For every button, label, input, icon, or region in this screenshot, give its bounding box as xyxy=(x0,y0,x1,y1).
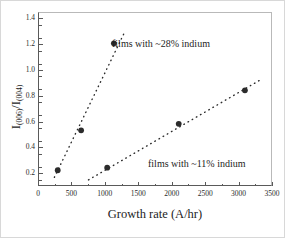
trendline-series-0 xyxy=(54,34,124,178)
x-tick-minor xyxy=(155,184,156,187)
y-tick-label: 1.2 xyxy=(14,40,35,48)
x-tick-major xyxy=(38,182,39,186)
y-tick-minor xyxy=(39,51,42,52)
annotation-11-percent-indium: films with ~11% indium xyxy=(148,158,246,170)
y-tick-major xyxy=(39,70,43,71)
y-axis-title-numerator: I xyxy=(9,125,23,129)
y-tick-label: 0.2 xyxy=(14,169,35,177)
x-tick-major xyxy=(205,182,206,186)
x-tick-label: 3500 xyxy=(265,190,280,198)
y-tick-major xyxy=(39,44,43,45)
x-tick-minor xyxy=(188,184,189,187)
y-tick-minor xyxy=(39,38,42,39)
x-axis-title: Growth rate (A/hr) xyxy=(38,207,272,221)
y-tick-minor xyxy=(39,167,42,168)
data-point-s1-2 xyxy=(242,87,248,93)
y-tick-minor xyxy=(39,76,42,77)
x-tick-major xyxy=(172,182,173,186)
x-tick-label: 500 xyxy=(66,190,77,198)
x-tick-label: 3000 xyxy=(231,190,246,198)
data-point-s1-0 xyxy=(104,165,110,171)
y-tick-minor xyxy=(39,180,42,181)
x-tick-label: 1500 xyxy=(131,190,146,198)
x-tick-major xyxy=(272,182,273,186)
x-tick-minor xyxy=(122,184,123,187)
y-tick-minor xyxy=(39,64,42,65)
x-tick-major xyxy=(138,182,139,186)
x-tick-minor xyxy=(88,184,89,187)
x-tick-minor xyxy=(255,184,256,187)
x-tick-major xyxy=(239,182,240,186)
y-tick-minor xyxy=(39,102,42,103)
y-tick-major xyxy=(39,18,43,19)
x-tick-label: 1000 xyxy=(97,190,112,198)
y-axis-title-sub-006: (006) xyxy=(15,109,24,125)
x-tick-minor xyxy=(55,184,56,187)
y-tick-minor xyxy=(39,154,42,155)
figure-container: 05001000150020002500300035000.20.40.60.8… xyxy=(0,0,286,239)
annotation-28-percent-indium: films with ~28% indium xyxy=(112,38,210,50)
y-tick-minor xyxy=(39,25,42,26)
y-axis-title-sub-004: (004) xyxy=(15,85,24,101)
x-tick-label: 0 xyxy=(36,190,40,198)
y-tick-minor xyxy=(39,128,42,129)
data-point-s1-1 xyxy=(176,121,182,127)
y-axis-title-divider: /I xyxy=(9,101,23,109)
x-tick-minor xyxy=(222,184,223,187)
y-tick-major xyxy=(39,147,43,148)
y-tick-major xyxy=(39,173,43,174)
x-tick-label: 2500 xyxy=(198,190,213,198)
y-tick-label: 1.4 xyxy=(14,14,35,22)
y-tick-minor xyxy=(39,141,42,142)
y-tick-major xyxy=(39,122,43,123)
data-point-s0-0 xyxy=(55,167,61,173)
y-axis-title: I(006)/I(004) xyxy=(9,52,25,162)
x-tick-major xyxy=(105,182,106,186)
x-tick-label: 2000 xyxy=(164,190,179,198)
y-tick-major xyxy=(39,96,43,97)
y-tick-minor xyxy=(39,115,42,116)
x-tick-major xyxy=(71,182,72,186)
data-point-s0-1 xyxy=(78,127,84,133)
y-tick-minor xyxy=(39,89,42,90)
